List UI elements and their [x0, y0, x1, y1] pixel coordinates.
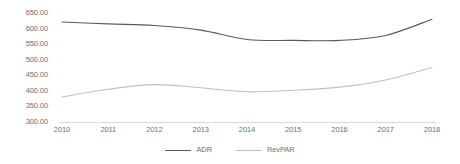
- legend-label: ADR: [196, 146, 212, 154]
- line-chart: 650.00600.00550.00500.00450.00400.00350.…: [0, 0, 460, 164]
- legend-line-swatch-icon: [236, 150, 262, 151]
- legend-label: RevPAR: [267, 146, 295, 154]
- chart-legend: ADRRevPAR: [0, 143, 460, 157]
- series-line-adr: [62, 19, 432, 41]
- plot-area: [0, 0, 460, 164]
- legend-item-adr[interactable]: ADR: [165, 146, 212, 154]
- legend-item-revpar[interactable]: RevPAR: [236, 146, 295, 154]
- legend-line-swatch-icon: [165, 150, 191, 151]
- series-line-revpar: [62, 68, 432, 98]
- series-lines: [62, 19, 432, 97]
